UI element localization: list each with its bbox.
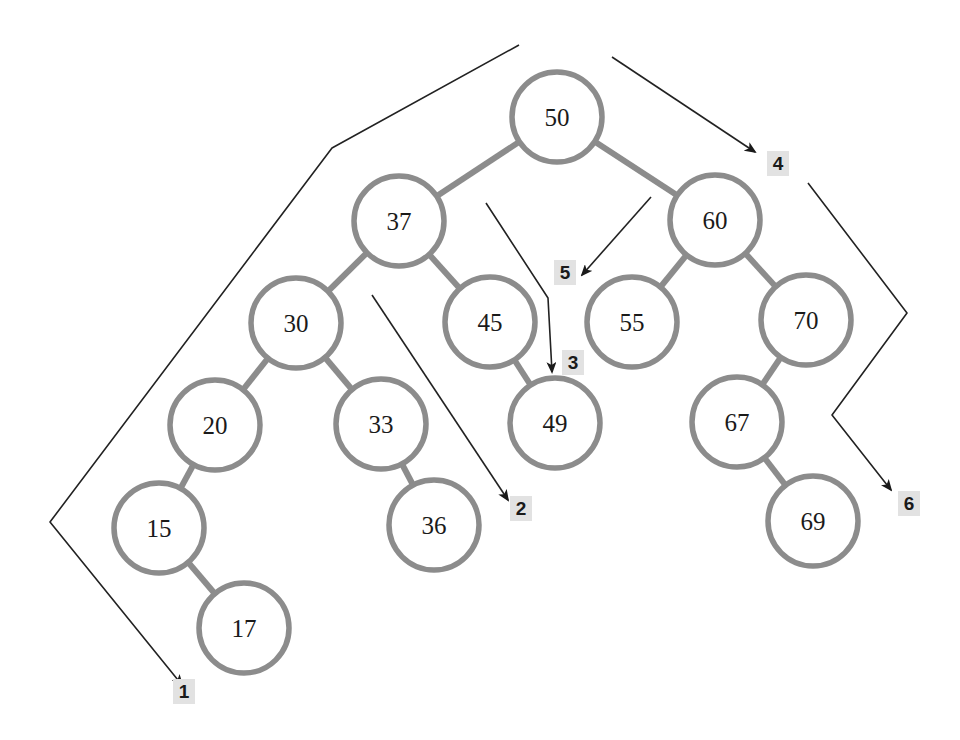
traversal-arrow-5 (582, 197, 651, 275)
path-label-5: 5 (554, 260, 576, 285)
path-number: 2 (516, 498, 527, 519)
tree-node-50: 50 (512, 72, 602, 162)
tree-node-33: 33 (336, 379, 426, 469)
node-value: 33 (369, 411, 394, 438)
node-value: 69 (801, 508, 826, 535)
path-number: 1 (179, 681, 190, 702)
path-number: 4 (773, 153, 784, 174)
tree-node-15: 15 (114, 483, 204, 573)
tree-node-20: 20 (170, 380, 260, 470)
node-value: 55 (620, 309, 645, 336)
tree-node-67: 67 (692, 377, 782, 467)
path-label-2: 2 (510, 496, 532, 521)
traversal-arrow-4 (612, 57, 755, 152)
path-number: 6 (904, 493, 915, 514)
tree-node-45: 45 (445, 277, 535, 367)
node-value: 45 (478, 309, 503, 336)
node-value: 70 (794, 307, 819, 334)
path-label-6: 6 (898, 491, 920, 516)
node-value: 15 (147, 515, 172, 542)
tree-node-49: 49 (510, 378, 600, 468)
node-value: 30 (284, 310, 309, 337)
node-value: 37 (387, 208, 412, 235)
node-value: 49 (543, 410, 568, 437)
tree-node-55: 55 (587, 277, 677, 367)
node-value: 36 (422, 512, 447, 539)
node-value: 67 (725, 409, 750, 436)
path-number: 5 (560, 262, 571, 283)
tree-diagram: 503760304555702033496715366917 123456 (0, 0, 960, 740)
node-value: 20 (203, 412, 228, 439)
path-number: 3 (568, 352, 579, 373)
tree-node-36: 36 (389, 480, 479, 570)
path-label-4: 4 (767, 151, 789, 176)
tree-node-60: 60 (670, 175, 760, 265)
node-value: 60 (703, 207, 728, 234)
tree-node-70: 70 (761, 275, 851, 365)
tree-node-69: 69 (768, 476, 858, 566)
path-label-3: 3 (562, 350, 584, 375)
node-value: 17 (232, 615, 257, 642)
tree-node-37: 37 (354, 176, 444, 266)
node-value: 50 (545, 104, 570, 131)
tree-node-17: 17 (199, 583, 289, 673)
path-label-1: 1 (173, 679, 195, 704)
tree-node-30: 30 (251, 278, 341, 368)
